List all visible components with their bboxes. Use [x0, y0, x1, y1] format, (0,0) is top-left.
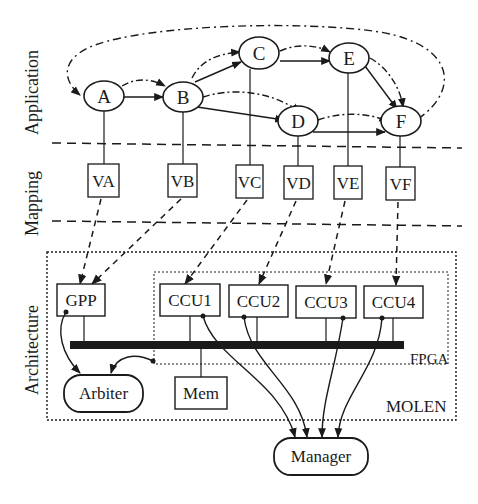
fpga-to-arbiter: [111, 356, 153, 373]
layer-label-application: Application: [22, 50, 42, 135]
mapping-label: VC: [238, 173, 262, 192]
node-B[interactable]: B: [163, 82, 203, 112]
gpp-label: GPP: [65, 291, 96, 310]
ccu-box-3[interactable]: CCU3: [296, 286, 356, 318]
mapping-label: VF: [390, 175, 412, 194]
map-VA-GPP: [80, 199, 101, 284]
manager-box[interactable]: Manager: [274, 438, 368, 475]
node-F[interactable]: F: [381, 106, 421, 136]
node-label: B: [177, 87, 190, 108]
layer-label-architecture: Architecture: [22, 305, 42, 395]
layer-label-mapping: Mapping: [22, 171, 42, 236]
node-label: D: [291, 111, 305, 132]
node-C[interactable]: C: [239, 37, 279, 69]
map-VF-CCU4: [396, 202, 398, 285]
mem-label: Mem: [183, 384, 219, 403]
mapping-node-VE[interactable]: VE: [334, 166, 362, 199]
node-D[interactable]: D: [278, 106, 318, 136]
mapping-node-VD[interactable]: VD: [284, 166, 313, 199]
edge-E-F: [365, 66, 397, 109]
ccu2-port: [242, 315, 247, 320]
mapping-label: VB: [171, 172, 195, 191]
system-bus: [70, 341, 404, 349]
mapping-node-VF[interactable]: VF: [386, 167, 415, 200]
molen-diagram: Application Mapping Architecture A: [0, 0, 478, 504]
mapping-label: VD: [286, 174, 311, 193]
node-label: F: [396, 111, 407, 132]
ccu-label: CCU2: [237, 292, 280, 311]
mapping-links: [104, 69, 400, 168]
edge-B-D: [197, 107, 284, 120]
mem-box[interactable]: Mem: [175, 377, 227, 409]
separator-mapping-architecture: [52, 221, 462, 226]
mapping-node-VB[interactable]: VB: [168, 164, 197, 197]
mapping-label: VE: [337, 174, 360, 193]
data-edge-C-E: [280, 46, 330, 52]
map-VB-GPP: [92, 199, 181, 284]
ccu3-to-manager: [322, 318, 343, 437]
ccu-box-1[interactable]: CCU1: [160, 284, 220, 316]
mapping-node-VA[interactable]: VA: [88, 164, 119, 197]
ccu-label: CCU1: [168, 291, 211, 310]
data-edge-E-F: [370, 58, 403, 107]
ccu-label: CCU3: [304, 293, 347, 312]
fpga-port: [151, 359, 156, 364]
gpp-port: [64, 310, 69, 315]
node-A[interactable]: A: [84, 81, 124, 111]
manager-arrows: [203, 316, 382, 437]
arbiter-box[interactable]: Arbiter: [64, 375, 143, 412]
data-edge-D-F: [318, 114, 388, 122]
manager-label: Manager: [291, 447, 352, 466]
node-label: E: [343, 48, 355, 69]
ccu-box-4[interactable]: CCU4: [364, 286, 423, 318]
molen-label: MOLEN: [386, 397, 446, 416]
node-label: A: [97, 86, 111, 107]
ccu3-port: [341, 316, 346, 321]
ccu4-to-manager: [338, 318, 382, 437]
ccu-box-2[interactable]: CCU2: [229, 285, 288, 317]
map-VC-CCU1: [185, 200, 247, 284]
ccu-label: CCU4: [372, 293, 416, 312]
mapping-node-VC[interactable]: VC: [236, 165, 263, 198]
node-label: C: [253, 43, 266, 64]
ccu4-port: [380, 316, 385, 321]
data-edge-A-B: [122, 80, 165, 86]
node-E[interactable]: E: [329, 43, 369, 73]
arbiter-label: Arbiter: [79, 384, 128, 403]
mapping-label: VA: [92, 172, 115, 191]
ccu1-port: [201, 314, 206, 319]
fpga-label: FPGA: [410, 351, 449, 367]
